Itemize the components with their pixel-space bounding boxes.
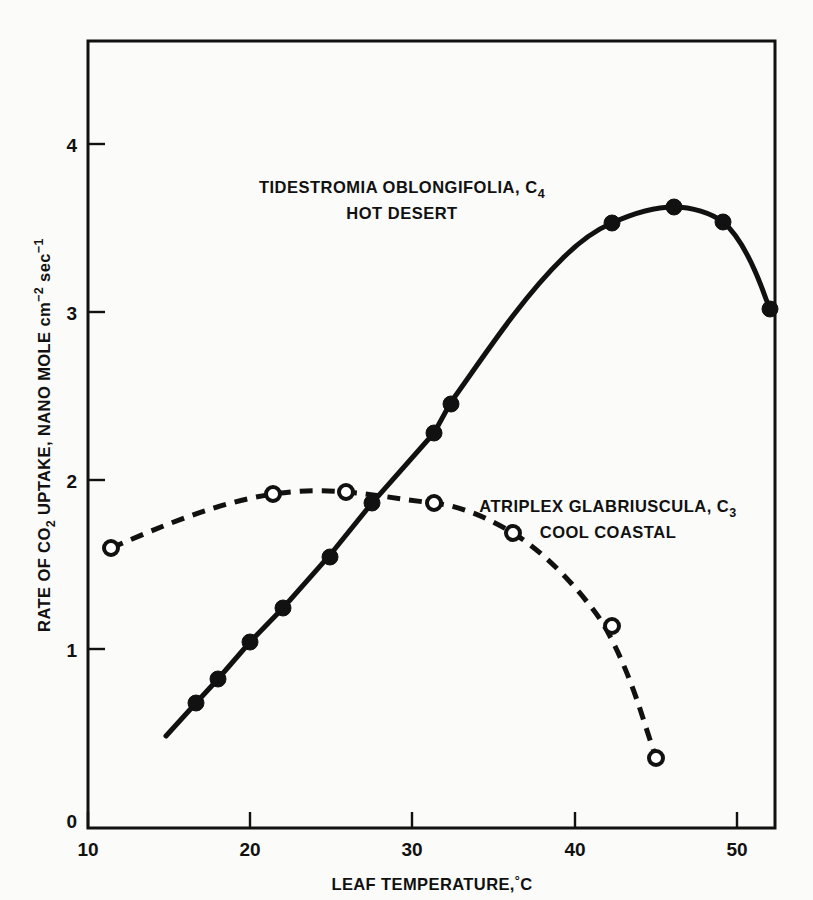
y-axis-title-part3: sec [35, 253, 53, 287]
x-axis-title-main: LEAF TEMPERATURE, [331, 875, 514, 893]
y-axis-tick-labels: 4 3 2 1 0 [66, 135, 77, 832]
atriplex-point-4[interactable] [427, 496, 441, 510]
atriplex-label-line2: COOL COASTAL [540, 523, 676, 541]
y-tick-label-1: 1 [66, 640, 77, 661]
figure-container: 4 3 2 1 0 10 20 30 40 50 LEAF TEMPERATUR… [0, 0, 813, 900]
y-axis-title-superscript-minus1: −1 [32, 238, 46, 253]
atriplex-point-5[interactable] [506, 526, 520, 540]
tidestromia-point-1[interactable] [188, 695, 204, 711]
tidestromia-point-8[interactable] [443, 396, 459, 412]
atriplex-point-1[interactable] [104, 541, 118, 555]
y-axis-title-superscript-minus2: −2 [32, 287, 46, 302]
tidestromia-point-3[interactable] [242, 634, 258, 650]
x-tick-label-50: 50 [726, 839, 747, 860]
y-tick-label-2: 2 [66, 471, 77, 492]
y-axis-title-subscript-2: 2 [44, 520, 58, 527]
x-tick-label-20: 20 [239, 839, 260, 860]
atriplex-label-line1: ATRIPLEX GLABRIUSCULA, C [479, 497, 729, 515]
tidestromia-point-10[interactable] [666, 199, 682, 215]
tidestromia-point-2[interactable] [210, 671, 226, 687]
tidestromia-point-4[interactable] [275, 600, 291, 616]
svg-text:TIDESTROMIA OBLONGIFOLIA, C4: TIDESTROMIA OBLONGIFOLIA, C4 [259, 178, 545, 201]
tidestromia-label-line1: TIDESTROMIA OBLONGIFOLIA, C [259, 178, 538, 196]
tidestromia-point-5[interactable] [322, 549, 338, 565]
tidestromia-data-points[interactable] [188, 199, 778, 711]
x-tick-label-30: 30 [401, 839, 422, 860]
svg-text:RATE OF CO2 UPTAKE, NANO MOLE: RATE OF CO2 UPTAKE, NANO MOLE cm−2 sec−1 [32, 238, 58, 632]
svg-text:LEAF TEMPERATURE,°C: LEAF TEMPERATURE,°C [331, 874, 532, 893]
y-axis-title-part2: UPTAKE, NANO MOLE cm [35, 302, 53, 520]
series-tidestromia-oblongifolia-c4[interactable] [166, 199, 778, 736]
y-axis-ticks [88, 144, 105, 649]
chart-canvas: 4 3 2 1 0 10 20 30 40 50 LEAF TEMPERATUR… [0, 0, 813, 900]
x-axis-tick-labels: 10 20 30 40 50 [77, 839, 747, 860]
x-axis-title: LEAF TEMPERATURE,°C [331, 874, 532, 893]
tidestromia-label-line2: HOT DESERT [346, 204, 457, 222]
tidestromia-point-6[interactable] [364, 495, 380, 511]
atriplex-point-2[interactable] [266, 487, 280, 501]
tidestromia-point-9[interactable] [604, 215, 620, 231]
tidestromia-curve-line [166, 207, 770, 736]
atriplex-label-subscript-3: 3 [729, 506, 736, 520]
y-axis-origin-label: 0 [66, 811, 77, 832]
x-axis-ticks [88, 812, 737, 828]
y-axis-title: RATE OF CO2 UPTAKE, NANO MOLE cm−2 sec−1 [32, 238, 58, 632]
annotation-tidestromia: TIDESTROMIA OBLONGIFOLIA, C4 HOT DESERT [259, 178, 545, 222]
atriplex-point-7[interactable] [649, 751, 663, 765]
tidestromia-point-7[interactable] [426, 425, 442, 441]
y-tick-label-3: 3 [66, 303, 77, 324]
y-tick-label-4: 4 [66, 135, 77, 156]
svg-text:ATRIPLEX GLABRIUSCULA, C3: ATRIPLEX GLABRIUSCULA, C3 [479, 497, 736, 520]
atriplex-point-3[interactable] [339, 485, 353, 499]
x-tick-label-40: 40 [564, 839, 585, 860]
tidestromia-label-subscript-4: 4 [538, 187, 545, 201]
x-axis-title-unit: C [520, 875, 532, 893]
y-axis-title-part1: RATE OF CO [35, 527, 53, 632]
x-tick-label-10: 10 [77, 839, 98, 860]
tidestromia-point-12[interactable] [762, 301, 778, 317]
atriplex-point-6[interactable] [605, 619, 619, 633]
tidestromia-point-11[interactable] [715, 214, 731, 230]
